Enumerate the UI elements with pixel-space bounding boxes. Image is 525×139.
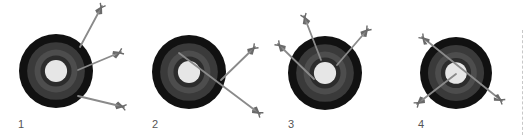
arrow-1-1 [80,2,106,47]
archery-targets-diagram [0,0,525,139]
arrow-2-2 [221,43,259,80]
target-label-2: 2 [152,119,158,130]
target-3 [274,13,373,110]
target-label-1: 1 [18,119,24,130]
arrow-shaft [80,6,102,47]
target-label-3: 3 [288,119,294,130]
target-bullseye [314,62,336,84]
target-2 [152,35,264,118]
target-4 [413,33,506,109]
target-bullseye [45,60,67,82]
target-1 [19,2,127,111]
page-edge-dashed-line [522,30,523,135]
arrow-shaft [221,47,255,80]
target-bullseye [178,61,200,83]
arrow-1-3 [78,96,127,111]
arrow-shaft [78,96,124,107]
target-label-4: 4 [418,119,424,130]
